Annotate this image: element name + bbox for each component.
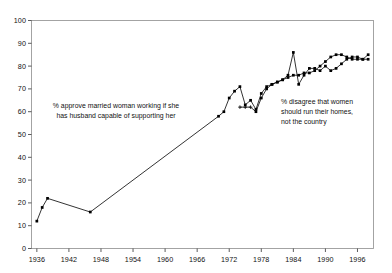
x-tick-label: 1996 [340, 255, 374, 264]
x-tick-label: 1984 [276, 255, 310, 264]
y-tick-label: 30 [4, 176, 26, 185]
y-tick-label: 90 [4, 39, 26, 48]
y-tick-label: 60 [4, 107, 26, 116]
x-tick-label: 1978 [244, 255, 278, 264]
approve-annotation: % approve married woman working if she h… [42, 101, 190, 121]
y-tick-label: 20 [4, 198, 26, 207]
y-tick-label: 0 [4, 244, 26, 253]
y-tick-label: 70 [4, 84, 26, 93]
x-tick-label: 1966 [180, 255, 214, 264]
chart-container: 0102030405060708090100193619421948195419… [0, 0, 392, 273]
x-tick-label: 1954 [116, 255, 150, 264]
axis-ticks [28, 21, 357, 253]
y-tick-label: 10 [4, 221, 26, 230]
plot-frame [32, 21, 374, 249]
y-tick-label: 50 [4, 130, 26, 139]
y-tick-label: 40 [4, 153, 26, 162]
y-tick-label: 80 [4, 62, 26, 71]
x-tick-label: 1972 [212, 255, 246, 264]
x-tick-label: 1990 [308, 255, 342, 264]
chart-plot-area [0, 0, 392, 273]
disagree-annotation: % disagree that women should run their h… [281, 97, 381, 127]
x-tick-label: 1942 [52, 255, 86, 264]
y-tick-label: 100 [4, 16, 26, 25]
data-series-0 [35, 51, 369, 222]
x-tick-label: 1948 [84, 255, 118, 264]
x-tick-label: 1936 [20, 255, 54, 264]
data-series-group [35, 51, 369, 222]
x-tick-label: 1960 [148, 255, 182, 264]
